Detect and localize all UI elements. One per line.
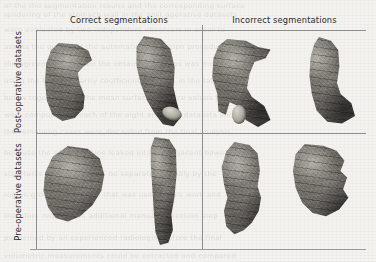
cell-post-operative-incorrect — [203, 31, 366, 133]
mesh-rendering-pre-incorrect-2 — [289, 144, 355, 228]
column-header-correct-segmentations: Correct segmentations — [36, 13, 202, 27]
column-header-incorrect-segmentations: Incorrect segmentations — [203, 13, 366, 27]
mesh-shading — [217, 142, 275, 238]
mesh-rendering-pre-correct-2 — [144, 137, 182, 245]
cell-pre-operative-incorrect — [203, 134, 366, 249]
mesh-rendering-post-incorrect-2 — [295, 37, 355, 129]
mesh-rendering-pre-correct-1 — [42, 146, 118, 236]
row-label-pre-operative-text: Pre-operative datasets — [13, 143, 23, 240]
row-label-pre-operative-datasets: Pre-operative datasets — [0, 134, 36, 249]
mesh-shading — [144, 137, 182, 245]
mesh-shading — [45, 43, 107, 121]
mesh-shading — [42, 146, 118, 236]
cell-pre-operative-correct — [36, 134, 202, 249]
row-label-post-operative-text: Post-operative datasets — [13, 31, 23, 133]
segmentation-results-figure: Correct segmentations Incorrect segmenta… — [0, 0, 376, 262]
mesh-rendering-post-correct-1 — [45, 43, 107, 121]
mesh-shading — [289, 144, 355, 228]
row-label-post-operative-datasets: Post-operative datasets — [0, 30, 36, 133]
mesh-segmentation-leak-blob — [232, 105, 246, 124]
mesh-shading — [295, 37, 355, 129]
cell-post-operative-correct — [36, 31, 202, 133]
figure-bottom-rule — [30, 249, 366, 250]
mesh-rendering-pre-incorrect-1 — [217, 142, 275, 238]
scanned-page: of the the segmentation results and the … — [0, 0, 376, 262]
